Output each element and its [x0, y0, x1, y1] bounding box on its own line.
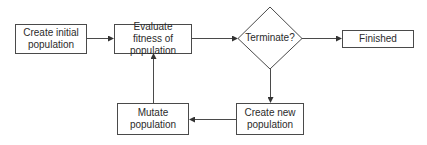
node-label: Evaluate fitness of population	[118, 21, 188, 57]
node-terminate-decision: Terminate?	[238, 32, 302, 44]
node-label: Mutate population	[121, 107, 185, 131]
node-create-initial-population: Create initial population	[15, 24, 87, 54]
node-create-new-population: Create new population	[236, 103, 304, 135]
node-evaluate-fitness: Evaluate fitness of population	[114, 24, 192, 54]
node-label: Terminate?	[245, 32, 294, 43]
node-label: Create new population	[240, 107, 300, 131]
flowchart: Create initial population Evaluate fitne…	[0, 0, 427, 145]
flowchart-edges	[0, 0, 427, 145]
node-mutate-population: Mutate population	[117, 103, 189, 135]
node-finished: Finished	[342, 30, 414, 48]
node-label: Create initial population	[19, 27, 83, 51]
node-label: Finished	[359, 33, 397, 45]
